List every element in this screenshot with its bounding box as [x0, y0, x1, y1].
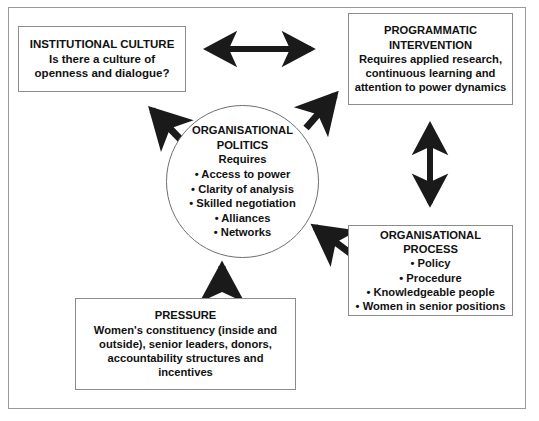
organisational-politics-item-5: • Networks: [214, 225, 271, 240]
institutional-culture-line-2: openness and dialogue?: [35, 66, 170, 81]
pressure-line-2: outside), senior leaders, donors,: [99, 337, 272, 351]
organisational-politics-heading-1: ORGANISATIONAL: [192, 123, 293, 138]
pressure-line-3: accountability structures and: [107, 351, 263, 365]
organisational-politics-item-3: • Skilled negotiation: [189, 196, 295, 211]
programmatic-intervention-line-1: Requires applied research,: [359, 52, 502, 66]
organisational-process-item-2: • Procedure: [399, 271, 461, 285]
institutional-culture-line-1: Is there a culture of: [49, 52, 155, 67]
node-institutional-culture: INSTITUTIONAL CULTURE Is there a culture…: [18, 26, 186, 92]
node-organisational-politics: ORGANISATIONAL POLITICS Requires • Acces…: [166, 105, 319, 258]
programmatic-intervention-line-2: continuous learning and: [366, 66, 496, 80]
node-pressure: PRESSURE Women's constituency (inside an…: [75, 298, 296, 390]
node-programmatic-intervention: PROGRAMMATIC INTERVENTION Requires appli…: [348, 13, 513, 105]
organisational-politics-subheading: Requires: [219, 152, 267, 167]
organisational-process-item-4: • Women in senior positions: [356, 299, 506, 313]
organisational-process-item-1: • Policy: [411, 256, 451, 270]
pressure-line-4: incentives: [158, 365, 213, 379]
organisational-politics-item-1: • Access to power: [195, 167, 291, 182]
programmatic-intervention-heading-2: INTERVENTION: [389, 38, 472, 52]
organisational-politics-heading-2: POLITICS: [217, 138, 269, 153]
diagram-canvas: INSTITUTIONAL CULTURE Is there a culture…: [0, 0, 539, 421]
programmatic-intervention-heading-1: PROGRAMMATIC: [384, 23, 477, 37]
organisational-process-heading-2: PROCESS: [403, 242, 458, 256]
organisational-politics-item-2: • Clarity of analysis: [191, 182, 294, 197]
institutional-culture-heading: INSTITUTIONAL CULTURE: [30, 37, 175, 52]
node-organisational-process: ORGANISATIONAL PROCESS • Policy • Proced…: [348, 225, 513, 316]
pressure-line-1: Women's constituency (inside and: [94, 323, 277, 337]
programmatic-intervention-line-3: attention to power dynamics: [355, 80, 507, 94]
organisational-politics-item-4: • Alliances: [215, 211, 271, 226]
pressure-heading: PRESSURE: [155, 308, 217, 322]
organisational-process-item-3: • Knowledgeable people: [366, 285, 494, 299]
organisational-process-heading-1: ORGANISATIONAL: [380, 228, 481, 242]
